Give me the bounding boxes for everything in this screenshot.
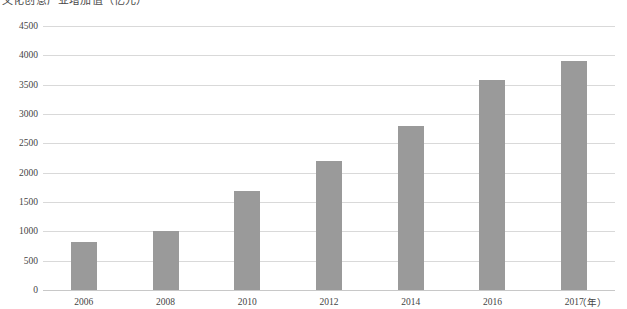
y-axis-tick-label: 3000 (0, 109, 38, 119)
y-axis-tick-label: 0 (0, 285, 38, 295)
x-axis-tick-label: 2016 (483, 297, 502, 308)
bar (71, 242, 97, 290)
bar (398, 126, 424, 290)
y-axis-tick-label: 1500 (0, 197, 38, 207)
chart-title: 文化创意产业增加值（亿元） (2, 0, 148, 7)
y-axis-tick-label: 4500 (0, 21, 38, 31)
x-axis-unit-label: （年） (577, 297, 607, 308)
bar-chart-figure: 文化创意产业增加值（亿元） 45004000350030002500200015… (0, 0, 627, 309)
y-axis-tick-label: 500 (0, 256, 38, 266)
x-axis-tick-label: 2014 (401, 297, 420, 308)
y-axis-tick-label: 2500 (0, 138, 38, 148)
bars (43, 26, 615, 290)
bar (479, 80, 505, 290)
y-axis-tick-label: 1000 (0, 226, 38, 236)
y-axis-tick-label: 3500 (0, 80, 38, 90)
y-axis-tick-label: 4000 (0, 50, 38, 60)
x-axis-tick-label: 2006 (74, 297, 93, 308)
plot-area (43, 26, 615, 290)
x-axis-tick-label: 2008 (156, 297, 175, 308)
bar (153, 231, 179, 290)
bar (561, 61, 587, 290)
gridline (43, 290, 615, 291)
x-axis-tick-label: 2010 (238, 297, 257, 308)
bar (316, 161, 342, 290)
y-axis-tick-label: 2000 (0, 168, 38, 178)
x-axis-tick-label: 2012 (320, 297, 339, 308)
bar (234, 191, 260, 290)
